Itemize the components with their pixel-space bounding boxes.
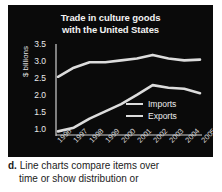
y-tick-label-2-5: 2.5 bbox=[22, 74, 46, 83]
legend-item-exports: Exports bbox=[126, 110, 177, 122]
chart-panel: Trade in culture goods with the United S… bbox=[8, 5, 213, 157]
y-tick-label-1-0: 1.0 bbox=[22, 125, 46, 134]
legend-label-imports: Imports bbox=[148, 100, 176, 109]
plot-svg bbox=[55, 44, 202, 136]
y-tick-label-3-0: 3.0 bbox=[22, 57, 46, 66]
figure-caption: d. Line charts compare items over time o… bbox=[8, 160, 214, 185]
legend-item-imports: Imports bbox=[126, 98, 177, 110]
figure-container: Trade in culture goods with the United S… bbox=[0, 0, 222, 192]
chart-title: Trade in culture goods with the United S… bbox=[8, 12, 213, 35]
caption-letter: d. bbox=[8, 160, 17, 171]
legend-swatch-exports bbox=[126, 115, 143, 118]
caption-line-2: time or show distribution or bbox=[8, 173, 214, 186]
y-tick-label-2-0: 2.0 bbox=[22, 91, 46, 100]
chart-title-line-1: Trade in culture goods bbox=[8, 12, 213, 24]
chart-legend: Imports Exports bbox=[126, 98, 177, 122]
y-tick-label-3-5: 3.5 bbox=[22, 40, 46, 49]
plot-area bbox=[55, 44, 202, 136]
y-tick-label-1-5: 1.5 bbox=[22, 108, 46, 117]
chart-title-line-2: with the United States bbox=[8, 24, 213, 36]
legend-label-exports: Exports bbox=[148, 112, 177, 121]
caption-line-1: Line charts compare items over bbox=[20, 160, 160, 171]
legend-swatch-imports bbox=[126, 103, 143, 106]
series-line-imports bbox=[58, 55, 200, 77]
